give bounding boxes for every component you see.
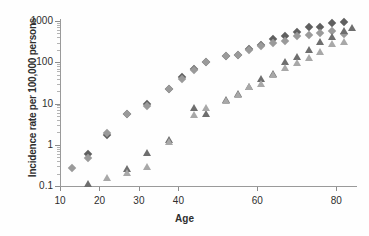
triangle-marker-icon: [281, 64, 289, 71]
x-tick: [178, 187, 179, 191]
triangle-marker-icon: [202, 104, 210, 111]
triangle-marker-icon: [190, 111, 198, 118]
x-tick: [257, 187, 258, 191]
triangle-marker-icon: [328, 40, 336, 47]
triangle-marker-icon: [84, 180, 92, 187]
chart-figure: Incidence rate per 100,000 persons Age 0…: [0, 0, 369, 236]
triangle-marker-icon: [340, 38, 348, 45]
x-tick-label: 60: [237, 195, 277, 206]
triangle-marker-icon: [269, 71, 277, 78]
triangle-marker-icon: [348, 24, 356, 31]
y-tick-minor: [57, 107, 60, 108]
x-tick: [99, 187, 100, 191]
x-tick-label: 80: [316, 195, 356, 206]
diamond-marker-icon: [304, 30, 312, 38]
y-tick-minor: [57, 149, 60, 150]
y-tick-minor: [57, 66, 60, 67]
x-tick-label: 10: [40, 195, 80, 206]
y-tick-minor: [57, 151, 60, 152]
y-tick-minor: [57, 50, 60, 51]
y-tick-minor: [57, 125, 60, 126]
x-tick: [139, 187, 140, 191]
triangle-marker-icon: [316, 38, 324, 45]
y-tick-label: 1000: [0, 16, 53, 26]
y-tick-minor: [57, 79, 60, 80]
y-tick-major: [55, 62, 60, 63]
diamond-marker-icon: [202, 58, 210, 66]
triangle-marker-icon: [257, 80, 265, 87]
y-tick-major: [55, 104, 60, 105]
y-tick-minor: [57, 116, 60, 117]
y-tick-minor: [57, 43, 60, 44]
triangle-marker-icon: [234, 91, 242, 98]
y-tick-label: 1: [0, 140, 53, 150]
y-tick-label: 0.1: [0, 181, 53, 191]
x-tick-label: 30: [119, 195, 159, 206]
x-tick-label: 20: [79, 195, 119, 206]
y-tick-minor: [57, 27, 60, 28]
triangle-marker-icon: [305, 46, 313, 53]
triangle-marker-icon: [316, 48, 324, 55]
y-tick-minor: [57, 110, 60, 111]
triangle-marker-icon: [340, 27, 348, 34]
plot-area: 0.11101001000 102030406080: [60, 21, 356, 186]
diamond-marker-icon: [245, 46, 253, 54]
diamond-marker-icon: [316, 28, 324, 36]
x-tick-label: 40: [158, 195, 198, 206]
x-axis-line: [60, 186, 357, 187]
x-tick: [336, 187, 337, 191]
y-tick-minor: [57, 147, 60, 148]
y-tick-minor: [57, 91, 60, 92]
y-tick-minor: [57, 105, 60, 106]
y-tick-minor: [57, 30, 60, 31]
y-tick-minor: [57, 154, 60, 155]
y-tick-minor: [57, 64, 60, 65]
x-tick: [60, 187, 61, 191]
diamond-marker-icon: [164, 85, 172, 93]
triangle-marker-icon: [123, 169, 131, 176]
x-axis-title: Age: [0, 213, 369, 224]
diamond-marker-icon: [328, 19, 336, 27]
y-tick-label: 10: [0, 99, 53, 109]
y-tick-minor: [57, 157, 60, 158]
y-tick-minor: [57, 71, 60, 72]
y-tick-minor: [57, 166, 60, 167]
triangle-marker-icon: [222, 97, 230, 104]
y-tick-minor: [57, 120, 60, 121]
y-tick-minor: [57, 23, 60, 24]
triangle-marker-icon: [143, 149, 151, 156]
diamond-marker-icon: [281, 37, 289, 45]
y-tick-minor: [57, 33, 60, 34]
triangle-marker-icon: [305, 54, 313, 61]
y-tick-major: [55, 145, 60, 146]
y-tick-minor: [57, 113, 60, 114]
triangle-marker-icon: [165, 138, 173, 145]
y-tick-minor: [57, 25, 60, 26]
y-tick-minor: [57, 69, 60, 70]
diamond-marker-icon: [222, 52, 230, 60]
y-tick-minor: [57, 75, 60, 76]
triangle-marker-icon: [143, 163, 151, 170]
y-tick-major: [55, 21, 60, 22]
triangle-marker-icon: [293, 59, 301, 66]
y-tick-minor: [57, 161, 60, 162]
diamond-marker-icon: [123, 110, 131, 118]
triangle-marker-icon: [103, 174, 111, 181]
y-tick-minor: [57, 37, 60, 38]
y-tick-label: 100: [0, 57, 53, 67]
y-tick-minor: [57, 132, 60, 133]
y-tick-minor: [57, 84, 60, 85]
diamond-marker-icon: [233, 51, 241, 59]
diamond-marker-icon: [68, 164, 76, 172]
triangle-marker-icon: [245, 83, 253, 90]
y-tick-minor: [57, 174, 60, 175]
